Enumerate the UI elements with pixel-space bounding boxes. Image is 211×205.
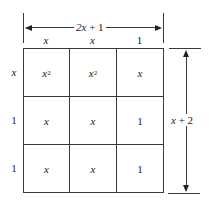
width-dimension-label: 2x + 1 [74, 21, 106, 33]
width-right-tick [163, 13, 164, 43]
cell-base: x [138, 67, 143, 79]
grid-right-border [163, 48, 164, 193]
area-grid: x2 x2 x x x 1 x x 1 [23, 48, 163, 193]
height-bottom-tick [168, 193, 200, 194]
cell-base: x [89, 67, 94, 79]
width-label-rest: + 1 [86, 21, 103, 33]
arrow-right-icon [155, 25, 162, 31]
cell-r2-c3: 1 [117, 97, 163, 144]
cell-r1-c1: x2 [24, 49, 69, 96]
column-header-3: 1 [116, 34, 163, 46]
cell-r1-c3: x [117, 49, 163, 96]
row-header-2: 1 [8, 114, 20, 126]
arrow-up-icon [183, 50, 189, 57]
arrow-left-icon [25, 25, 32, 31]
cell-base: x [91, 115, 96, 127]
column-header-1: x [23, 34, 69, 46]
cell-base: 1 [137, 163, 143, 175]
width-label-var: 2x [76, 21, 86, 33]
height-top-tick [169, 48, 201, 49]
cell-r1-c2: x2 [70, 49, 116, 96]
row-header-1: x [8, 66, 20, 78]
height-label-rest: + 2 [176, 114, 193, 126]
height-dimension-label: x + 2 [169, 114, 195, 126]
grid-bottom-border [23, 192, 164, 193]
arrow-down-icon [183, 185, 189, 192]
cell-base: x [44, 163, 49, 175]
cell-base: 1 [137, 115, 143, 127]
column-header-2: x [69, 34, 116, 46]
cell-r2-c2: x [70, 97, 116, 144]
row-header-3: 1 [8, 162, 20, 174]
cell-base: x [44, 115, 49, 127]
cell-r3-c3: 1 [117, 145, 163, 192]
cell-r3-c2: x [70, 145, 116, 192]
cell-base: x [91, 163, 96, 175]
cell-r3-c1: x [24, 145, 69, 192]
cell-r2-c1: x [24, 97, 69, 144]
